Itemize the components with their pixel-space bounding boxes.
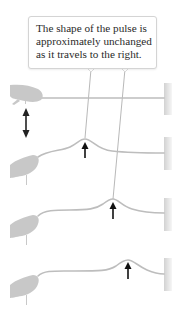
leader-lines — [85, 69, 125, 199]
pulse-arrows — [82, 142, 132, 279]
rope-3 — [38, 199, 164, 216]
leader-line-2 — [113, 69, 125, 199]
wall-1 — [164, 83, 172, 115]
hand-4-icon — [10, 275, 39, 305]
up-arrow-icon-1 — [82, 142, 89, 158]
up-arrow-icon-2 — [110, 202, 117, 219]
callout-box: The shape of the pulse is approximately … — [28, 16, 157, 69]
leader-line-1 — [85, 69, 91, 138]
rope-2 — [38, 139, 164, 157]
up-down-arrow-icon — [23, 108, 30, 138]
rope-4 — [38, 260, 164, 276]
walls — [164, 83, 172, 291]
hand-1-icon — [10, 85, 43, 105]
hand-2-icon — [10, 155, 39, 185]
callout-line-1: The shape of the pulse is — [36, 22, 152, 35]
up-arrow-icon-3 — [125, 262, 132, 279]
callout-line-3: as it travels to the right. — [36, 48, 152, 61]
callout-line-2: approximately unchanged — [36, 35, 152, 48]
wall-3 — [164, 198, 172, 231]
wall-4 — [164, 258, 172, 291]
callout-notches — [88, 69, 128, 72]
wall-2 — [164, 137, 172, 170]
hand-3-icon — [10, 215, 39, 245]
ropes — [38, 98, 164, 276]
